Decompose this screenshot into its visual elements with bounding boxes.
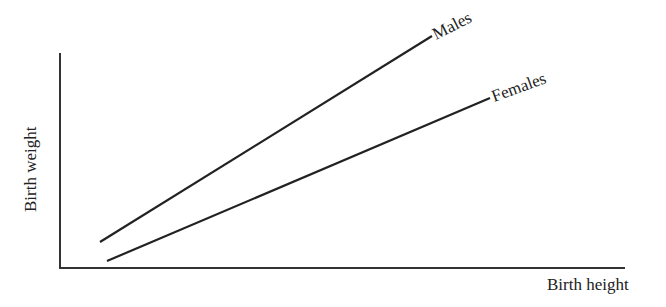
x-axis-label: Birth height (547, 275, 629, 294)
females-line (107, 98, 490, 261)
chart: Males Females Birth weight Birth height (0, 0, 666, 307)
females-label: Females (489, 69, 549, 106)
y-axis-label: Birth weight (21, 126, 40, 212)
males-label: Males (429, 8, 475, 44)
males-line (100, 36, 432, 242)
